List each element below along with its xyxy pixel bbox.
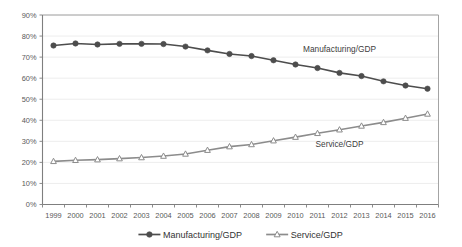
data-point-marker [117,41,122,46]
legend-item[interactable]: Manufacturing/GDP [138,230,242,240]
plot-frame [43,15,439,205]
y-axis-tick-labels: 0%10%20%30%40%50%60%70%80%90% [22,11,37,210]
x-axis [43,205,439,208]
legend-item[interactable]: Service/GDP [266,230,343,240]
y-tick-label: 10% [22,179,37,188]
x-axis-tick-labels: 1999200020012002200320042005200620072008… [45,211,435,220]
data-point-marker [249,53,254,58]
data-point-marker [315,65,320,70]
x-tick-label: 2005 [177,211,193,220]
series-annotation-label: Manufacturing/GDP [303,44,376,54]
data-point-marker [381,79,386,84]
data-point-marker [73,41,78,46]
x-tick-label: 2016 [419,211,435,220]
x-tick-label: 2006 [199,211,215,220]
y-tick-label: 50% [22,95,37,104]
series-annotation-label: Service/GDP [316,139,364,149]
y-tick-label: 80% [22,32,37,41]
legend-item-label: Service/GDP [291,230,343,240]
data-point-marker [425,86,430,91]
data-point-marker [425,111,431,116]
line-chart-figure: 0%10%20%30%40%50%60%70%80%90% 1999200020… [0,0,462,247]
legend-item-label: Manufacturing/GDP [163,230,242,240]
data-point-marker [271,58,276,63]
chart-legend: Manufacturing/GDPService/GDP [138,230,342,240]
data-point-marker [359,73,364,78]
y-tick-label: 40% [22,116,37,125]
x-tick-label: 2004 [155,211,171,220]
x-tick-label: 2008 [243,211,259,220]
data-point-marker [337,70,342,75]
x-tick-label: 2009 [265,211,281,220]
x-tick-label: 2002 [111,211,127,220]
data-point-marker [227,51,232,56]
x-tick-label: 2010 [287,211,303,220]
data-point-marker [51,43,56,48]
data-point-marker [403,83,408,88]
y-tick-label: 0% [26,200,37,209]
data-point-marker [183,44,188,49]
data-point-marker [205,48,210,53]
data-point-marker [293,62,298,67]
x-tick-label: 2001 [89,211,105,220]
series-service-gdp [51,111,431,164]
x-tick-label: 2007 [221,211,237,220]
x-tick-label: 1999 [45,211,61,220]
x-tick-label: 2012 [331,211,347,220]
series-annotations: Manufacturing/GDPService/GDP [303,44,376,149]
y-tick-label: 60% [22,74,37,83]
legend-marker-filled-circle [147,232,153,238]
y-tick-label: 20% [22,158,37,167]
y-tick-label: 90% [22,11,37,20]
data-point-marker [95,42,100,47]
x-tick-label: 2000 [67,211,83,220]
x-tick-label: 2003 [133,211,149,220]
chart-canvas: 0%10%20%30%40%50%60%70%80%90% 1999200020… [0,0,462,247]
x-tick-label: 2015 [397,211,413,220]
y-axis [40,15,43,205]
y-tick-label: 30% [22,137,37,146]
x-tick-label: 2011 [310,211,326,220]
x-tick-label: 2014 [375,211,391,220]
data-point-marker [161,41,166,46]
data-point-marker [139,41,144,46]
y-tick-label: 70% [22,53,37,62]
x-tick-label: 2013 [353,211,369,220]
gridlines-group [43,15,439,183]
